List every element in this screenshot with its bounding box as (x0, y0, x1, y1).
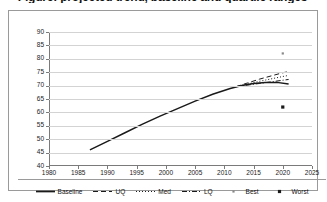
y-tick-label: 90 (18, 29, 44, 36)
y-gridline (49, 45, 312, 46)
y-gridline (49, 59, 312, 60)
legend-swatch-uq (93, 188, 112, 195)
figure-title-clipped: Figure: projected trend, baseline and qu… (0, 0, 325, 3)
y-tick-mark (46, 99, 49, 100)
y-tick-label: 85 (18, 42, 44, 49)
y-tick-mark (46, 86, 49, 87)
x-tick-label: 1985 (63, 169, 93, 176)
legend-swatch-lq (182, 188, 201, 195)
legend-item-worst[interactable]: Worst (270, 188, 309, 195)
y-gridline (49, 112, 312, 113)
marker-best (282, 52, 284, 54)
page-title: Figure: projected trend, baseline and qu… (0, 0, 325, 3)
y-gridline (49, 126, 312, 127)
x-tick-label: 2025 (297, 169, 327, 176)
legend-item-best[interactable]: Best (224, 188, 259, 195)
chart-legend: BaselineUQMedLQBestWorst (18, 179, 326, 202)
y-tick-mark (46, 112, 49, 113)
x-tick-label: 1990 (92, 169, 122, 176)
legend-swatch-med (136, 188, 155, 195)
legend-item-lq[interactable]: LQ (182, 188, 213, 195)
x-tick-label: 2010 (209, 169, 239, 176)
legend-label: Worst (292, 188, 309, 195)
y-tick-mark (46, 72, 49, 73)
legend-item-baseline[interactable]: Baseline (36, 188, 83, 195)
y-gridline (49, 32, 312, 33)
legend-item-uq[interactable]: UQ (93, 188, 125, 195)
marker-worst (281, 105, 284, 108)
y-tick-label: 65 (18, 96, 44, 103)
y-tick-mark (46, 126, 49, 127)
legend-label: UQ (115, 188, 125, 195)
y-gridline (49, 153, 312, 154)
y-tick-mark (46, 59, 49, 60)
legend-swatch-baseline (36, 188, 55, 195)
y-tick-label: 55 (18, 122, 44, 129)
x-tick-label: 2005 (180, 169, 210, 176)
x-tick-label: 2020 (268, 169, 298, 176)
y-tick-label: 75 (18, 69, 44, 76)
x-tick-label: 2015 (239, 169, 269, 176)
legend-label: LQ (204, 188, 213, 195)
y-tick-label: 80 (18, 55, 44, 62)
y-gridline (49, 72, 312, 73)
legend-label: Baseline (58, 188, 83, 195)
legend-label: Best (246, 188, 259, 195)
series-line-uq (236, 72, 289, 87)
chart-frame: 4045505560657075808590198019851990199520… (8, 10, 318, 191)
y-tick-label: 45 (18, 149, 44, 156)
y-gridline (49, 86, 312, 87)
y-tick-mark (46, 153, 49, 154)
legend-item-med[interactable]: Med (136, 188, 171, 195)
y-gridline (49, 139, 312, 140)
y-tick-mark (46, 139, 49, 140)
legend-swatch-best (224, 188, 243, 195)
legend-label: Med (158, 188, 171, 195)
legend-swatch-worst (270, 188, 289, 195)
y-tick-label: 60 (18, 109, 44, 116)
x-tick-label: 1995 (122, 169, 152, 176)
y-tick-label: 70 (18, 82, 44, 89)
y-tick-mark (46, 45, 49, 46)
y-tick-mark (46, 32, 49, 33)
y-gridline (49, 99, 312, 100)
x-tick-label: 1980 (34, 169, 64, 176)
x-tick-label: 2000 (151, 169, 181, 176)
y-tick-label: 50 (18, 136, 44, 143)
